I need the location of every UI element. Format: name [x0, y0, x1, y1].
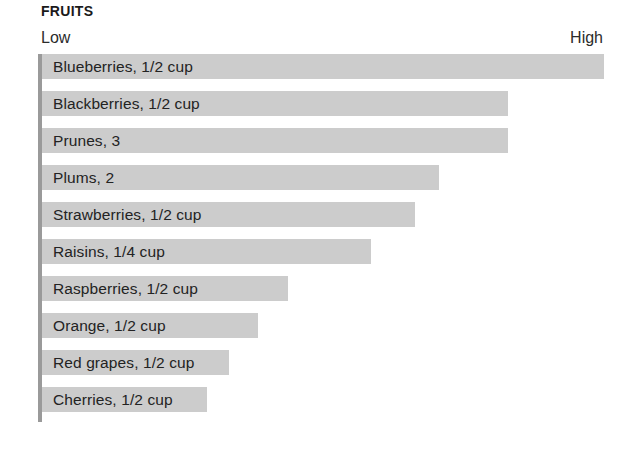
bar-label: Red grapes, 1/2 cup — [53, 350, 195, 375]
bar-label: Plums, 2 — [53, 165, 114, 190]
plot-area: Blueberries, 1/2 cupBlackberries, 1/2 cu… — [38, 54, 604, 422]
bar-list: Blueberries, 1/2 cupBlackberries, 1/2 cu… — [42, 54, 604, 422]
bar-row: Prunes, 3 — [42, 128, 604, 153]
bar-label: Raspberries, 1/2 cup — [53, 276, 198, 301]
scale-label-high: High — [570, 28, 603, 48]
bar-label: Blueberries, 1/2 cup — [53, 54, 193, 79]
bar-label: Cherries, 1/2 cup — [53, 387, 173, 412]
bar-row: Blueberries, 1/2 cup — [42, 54, 604, 79]
bar-row: Raspberries, 1/2 cup — [42, 276, 604, 301]
bar-label: Blackberries, 1/2 cup — [53, 91, 200, 116]
bar-row: Red grapes, 1/2 cup — [42, 350, 604, 375]
bar-row: Strawberries, 1/2 cup — [42, 202, 604, 227]
page-title: FRUITS — [41, 2, 93, 20]
bar-row: Plums, 2 — [42, 165, 604, 190]
bar-row: Cherries, 1/2 cup — [42, 387, 604, 412]
bar-label: Strawberries, 1/2 cup — [53, 202, 202, 227]
bar-label: Raisins, 1/4 cup — [53, 239, 165, 264]
scale-axis-labels: Low High — [41, 28, 603, 50]
bar-row: Orange, 1/2 cup — [42, 313, 604, 338]
fruits-fiber-chart: FRUITS Low High Blueberries, 1/2 cupBlac… — [0, 0, 642, 455]
bar-label: Prunes, 3 — [53, 128, 120, 153]
bar-row: Blackberries, 1/2 cup — [42, 91, 604, 116]
bar-row: Raisins, 1/4 cup — [42, 239, 604, 264]
scale-label-low: Low — [41, 28, 70, 48]
bar-label: Orange, 1/2 cup — [53, 313, 166, 338]
